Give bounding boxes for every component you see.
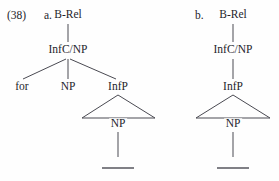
syntax-tree-figure: (38) a. b. B-Rel InfC/NP for NP InfP NP … (0, 0, 279, 181)
tree-b-letter-label: b. (195, 10, 204, 22)
infp-node-b: InfP (222, 81, 245, 93)
edge-a-infcnp-to-infp (70, 59, 116, 79)
np-trace-node-a: NP (109, 118, 127, 130)
root-node-a: B-Rel (53, 9, 83, 21)
triangle-a-left-side (82, 95, 118, 118)
triangle-b-right-side (233, 95, 270, 118)
tree-a-letter-label: a. (44, 10, 52, 22)
example-number: (38) (7, 10, 26, 22)
edge-a-infcnp-to-for (23, 59, 66, 79)
infc-np-node-b: InfC/NP (212, 44, 254, 56)
np-subject-node-a: NP (59, 81, 77, 93)
infc-np-node-a: InfC/NP (47, 44, 89, 56)
triangle-a-right-side (118, 95, 155, 118)
np-trace-node-b: NP (224, 118, 242, 130)
root-node-b: B-Rel (218, 9, 248, 21)
triangle-b-left-side (196, 95, 233, 118)
infp-node-a: InfP (107, 81, 130, 93)
for-node-a: for (14, 81, 30, 93)
